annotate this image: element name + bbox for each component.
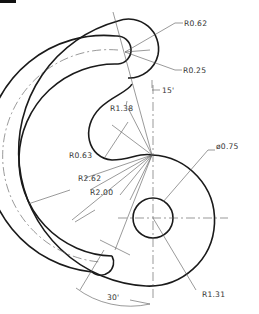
dim-r063: R0.63	[69, 151, 92, 160]
dim-angle-15: 15'	[162, 86, 174, 95]
dim-r062: R0.62	[184, 19, 207, 28]
dimension-labels: R0.62 R0.25 15' R1.38 R0.63 R2.62 R2.00 …	[69, 19, 239, 302]
object-outline	[0, 19, 215, 286]
technical-drawing: R0.62 R0.25 15' R1.38 R0.63 R2.62 R2.00 …	[0, 0, 259, 314]
center-lines	[3, 50, 228, 300]
dim-hole-dia: ø0.75	[216, 142, 239, 151]
dim-r138: R1.38	[110, 104, 133, 113]
dim-r262: R2.62	[78, 174, 101, 183]
dim-r131: R1.31	[202, 290, 225, 299]
lobe-arc	[146, 155, 215, 286]
dim-angle-30: 30'	[107, 293, 119, 302]
dim-r200: R2.00	[90, 188, 113, 197]
notch-curve	[89, 84, 152, 160]
dim-r025: R0.25	[183, 66, 206, 75]
